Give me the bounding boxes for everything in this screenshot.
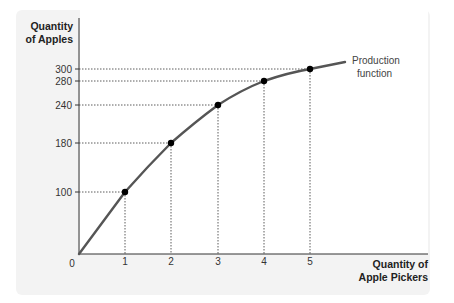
horizontal-guides xyxy=(79,69,310,192)
x-axis-label-line1: Quantity of xyxy=(373,258,429,270)
x-tick-2: 2 xyxy=(168,256,174,267)
point-1-100 xyxy=(122,189,128,195)
data-point-markers xyxy=(122,66,313,195)
point-2-180 xyxy=(168,140,174,146)
point-3-240 xyxy=(215,102,221,108)
x-tick-4: 4 xyxy=(261,256,267,267)
y-tick-280: 280 xyxy=(55,76,72,87)
y-tick-100: 100 xyxy=(55,187,72,198)
curve-annotation-line2: function xyxy=(357,68,392,79)
x-tick-0: 0 xyxy=(69,258,75,269)
production-function-curve xyxy=(79,62,345,254)
y-axis-label-line2: of Apples xyxy=(26,33,74,45)
point-4-280 xyxy=(261,78,267,84)
x-tick-5: 5 xyxy=(307,256,313,267)
production-function-chart: Quantity of Apples 100 180 240 280 300 0… xyxy=(0,0,454,303)
x-tick-1: 1 xyxy=(122,256,128,267)
y-axis-label-line1: Quantity xyxy=(30,20,73,32)
x-axis-label-line2: Apple Pickers xyxy=(359,271,429,283)
curve-annotation-line1: Production xyxy=(352,55,400,66)
point-5-300 xyxy=(307,66,313,72)
x-tick-3: 3 xyxy=(215,256,221,267)
y-tick-300: 300 xyxy=(55,64,72,75)
y-tick-240: 240 xyxy=(55,100,72,111)
y-tick-180: 180 xyxy=(55,138,72,149)
